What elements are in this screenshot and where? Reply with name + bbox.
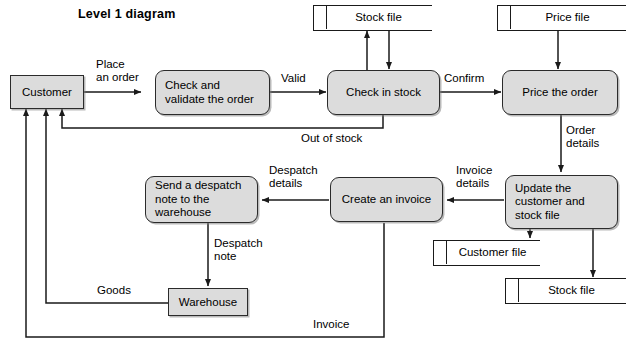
page-title: Level 1 diagram [78,7,176,21]
process-create-an-invoice[interactable]: Create an invoice [330,177,443,222]
process-label: Update the customer and stock file [506,182,617,222]
external-entity-customer[interactable]: Customer [10,75,84,109]
store-id-cell [505,278,519,302]
data-store-stock-file-bottom[interactable]: Stock file [505,278,625,302]
process-check-and-validate-the-order[interactable]: Check and validate the order [155,70,270,115]
data-store-stock-file-top[interactable]: Stock file [313,5,431,29]
flow-label-invoice: Invoice [313,318,349,331]
store-label: Stock file [518,278,625,302]
flow-label-confirm: Confirm [444,72,484,85]
flow-label-despatch-details: Despatch details [269,164,318,190]
store-label: Customer file [446,240,539,264]
process-label: Price the order [517,86,602,99]
flow-label-despatch-note: Despatch note [214,237,263,263]
process-update-the-customer-and-stock-file[interactable]: Update the customer and stock file [505,175,618,229]
store-id-cell [497,5,511,29]
flow-label-valid: Valid [281,72,306,85]
store-label: Price file [510,5,625,29]
flow-label-out-of-stock: Out of stock [301,132,362,145]
entity-label: Customer [22,86,72,98]
store-label: Stock file [326,5,431,29]
flow-label-place-an-order: Place an order [96,58,139,84]
store-id-cell [313,5,327,29]
diagram-canvas: Level 1 diagram Stock file Price file Cu… [0,0,628,345]
entity-label: Warehouse [179,296,237,308]
store-id-cell [433,240,447,264]
process-label: Check and validate the order [156,79,269,106]
flow-label-invoice-details: Invoice details [456,164,492,190]
flow-label-order-details: Order details [566,124,599,150]
process-label: Check in stock [341,86,426,99]
process-label: Create an invoice [337,193,437,206]
data-store-customer-file[interactable]: Customer file [433,240,539,264]
external-entity-warehouse[interactable]: Warehouse [168,288,248,316]
process-price-the-order[interactable]: Price the order [502,70,618,115]
process-label: Send a despatch note to the warehouse [146,179,257,219]
data-store-price-file[interactable]: Price file [497,5,625,29]
flow-label-goods: Goods [97,284,131,297]
process-send-a-despatch-note-to-the-warehouse[interactable]: Send a despatch note to the warehouse [145,176,258,223]
process-check-in-stock[interactable]: Check in stock [327,70,440,115]
